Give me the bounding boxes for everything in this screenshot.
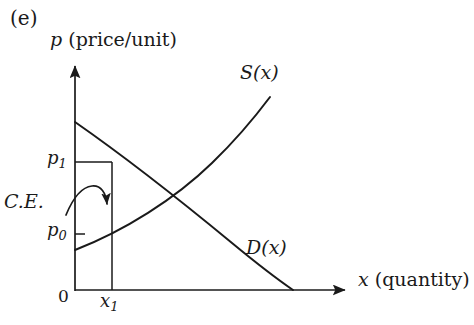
x-axis-variable: x — [358, 268, 369, 290]
y-axis-units: (price/unit) — [68, 28, 177, 50]
y-axis-label: p (price/unit) — [50, 30, 177, 49]
demand-curve-symbol: D — [246, 236, 261, 258]
p0-tick-label: p0 — [47, 221, 67, 243]
supply-curve-symbol: S — [240, 61, 253, 83]
supply-curve-argument: (x) — [253, 61, 279, 83]
y-axis-variable: p — [50, 28, 62, 50]
demand-curve-argument: (x) — [261, 236, 287, 258]
supply-curve-label: S(x) — [240, 63, 279, 82]
x-axis-units: (quantity) — [375, 268, 470, 290]
demand-curve — [75, 122, 293, 290]
p0-symbol: p — [47, 219, 59, 240]
supply-demand-figure: (e) p (price/unit) x (quantity) S(x) D(x… — [0, 0, 474, 325]
origin-label: 0 — [58, 288, 69, 305]
x1-symbol: x — [100, 290, 110, 311]
p1-symbol: p — [47, 147, 59, 168]
x1-tick-label: x1 — [100, 292, 118, 314]
p1-subscript: 1 — [59, 156, 67, 171]
consumer-excess-arrow — [66, 186, 107, 215]
demand-curve-label: D(x) — [246, 238, 287, 257]
consumer-excess-label: C.E. — [4, 192, 44, 211]
p0-subscript: 0 — [59, 228, 67, 243]
x-axis-label: x (quantity) — [358, 270, 470, 289]
supply-curve — [75, 97, 270, 250]
p1-tick-label: p1 — [47, 149, 67, 171]
x1-subscript: 1 — [110, 299, 118, 314]
panel-tag: (e) — [10, 8, 37, 28]
